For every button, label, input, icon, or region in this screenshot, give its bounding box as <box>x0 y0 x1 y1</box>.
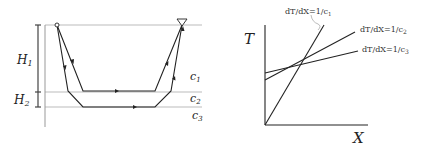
ray-path-2 <box>57 25 182 107</box>
layered-refraction-diagram: H1 H2 c1 c2 c3 <box>13 19 203 127</box>
thickness-marker <box>35 25 41 107</box>
line-c3 <box>265 51 358 73</box>
c3-label: c3 <box>192 109 203 123</box>
line-c2 <box>265 32 355 80</box>
c3-slope-label: dT/dX=1/c3 <box>362 45 409 55</box>
ray-path-1 <box>57 25 182 91</box>
travel-time-chart: T X dT/dX=1/c1 dT/dX=1/c2 dT/dX=1/c3 <box>244 7 409 147</box>
source-icon <box>55 23 59 27</box>
arrow-right-path2 <box>133 105 137 109</box>
c1-slope-label: dT/dX=1/c1 <box>285 7 331 17</box>
direction-arrows <box>63 26 185 109</box>
h1-label: H1 <box>16 53 33 68</box>
h2-label: H2 <box>13 93 30 108</box>
c1-label: c1 <box>190 70 201 84</box>
c2-slope-label: dT/dX=1/c2 <box>360 25 407 35</box>
c2-label: c2 <box>190 92 201 106</box>
x-axis-label: X <box>352 129 365 147</box>
c1-leader <box>311 15 320 30</box>
t-axis-label: T <box>244 30 255 48</box>
